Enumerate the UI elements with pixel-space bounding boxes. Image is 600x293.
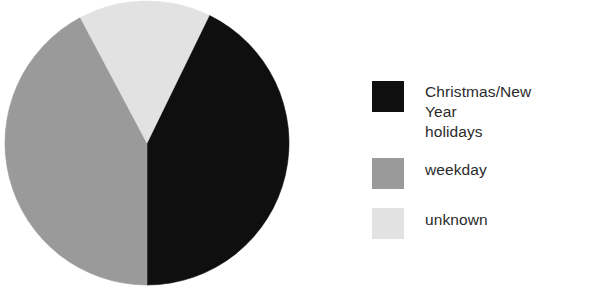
legend-swatch-weekday	[372, 158, 404, 189]
legend-label-weekday: weekday	[425, 160, 487, 180]
legend-label-christmas-new-year-holidays: Christmas/New Year holidays	[425, 82, 531, 142]
pie-chart-plot-area	[0, 0, 300, 293]
legend-label-unknown: unknown	[425, 210, 488, 230]
legend-swatch-christmas-new-year-holidays	[372, 81, 404, 112]
pie-chart-svg	[0, 0, 300, 293]
pie-chart-figure: Christmas/New Year holidays weekday unkn…	[0, 0, 600, 293]
legend-swatch-unknown	[372, 208, 404, 239]
chart-legend: Christmas/New Year holidays weekday unkn…	[370, 70, 600, 250]
pie-slice-group	[5, 1, 289, 285]
